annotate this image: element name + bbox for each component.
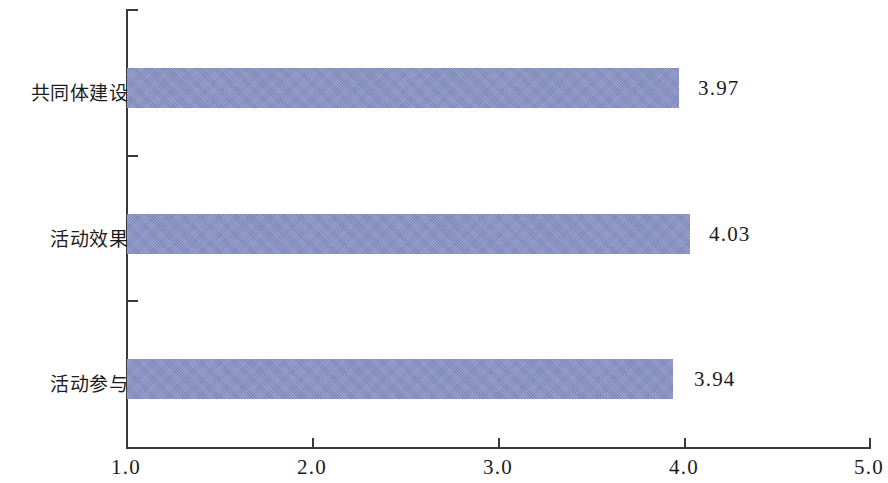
category-label-2: 活动参与	[0, 369, 128, 396]
x-axis-tick-5	[869, 438, 871, 448]
value-label-2: 3.94	[694, 367, 736, 392]
x-axis-label-3: 4.0	[639, 455, 729, 480]
x-axis-label-2: 3.0	[453, 455, 543, 480]
bar-0	[127, 68, 679, 108]
horizontal-bar-chart: 共同体建设 3.97 活动效果 4.03 活动参与 3.94 1.0 2.0 3…	[0, 0, 888, 483]
x-axis-tick-3	[498, 438, 500, 448]
x-axis-label-1: 2.0	[267, 455, 357, 480]
category-label-1: 活动效果	[0, 224, 128, 251]
x-axis-tick-2	[312, 438, 314, 448]
x-axis-tick-4	[684, 438, 686, 448]
x-axis-label-0: 1.0	[81, 455, 171, 480]
y-axis-tick-top	[127, 9, 138, 11]
bar-1	[127, 214, 690, 254]
y-axis-tick-2	[127, 300, 138, 302]
x-axis-tick-1	[126, 438, 128, 448]
bar-2	[127, 359, 673, 399]
value-label-1: 4.03	[709, 222, 751, 247]
y-axis-tick-1	[127, 155, 138, 157]
x-axis-label-4: 5.0	[824, 455, 888, 480]
category-label-0: 共同体建设	[0, 78, 128, 105]
value-label-0: 3.97	[698, 76, 740, 101]
